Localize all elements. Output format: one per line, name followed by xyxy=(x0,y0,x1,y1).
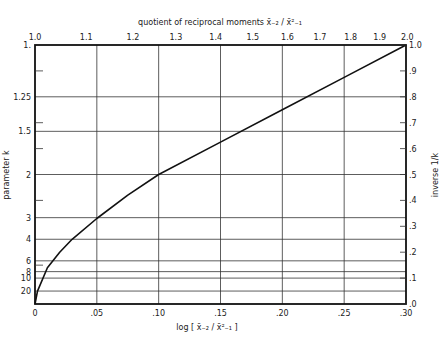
left-tick-label: 1.25 xyxy=(13,93,31,102)
right-tick-label: .3 xyxy=(409,222,417,231)
top-tick-label: 1.7 xyxy=(314,33,327,42)
left-tick-label: 20 xyxy=(21,287,31,296)
right-tick-label: .6 xyxy=(409,145,417,154)
top-tick-label: 2.0 xyxy=(401,33,414,42)
grid-lines xyxy=(35,45,406,304)
right-tick-label: 1.0 xyxy=(409,41,422,50)
axis-ticks: 0.05.10.15.20.25.301.1.251.52346810201.0… xyxy=(13,33,422,318)
chart: 0.05.10.15.20.25.301.1.251.52346810201.0… xyxy=(0,0,447,341)
top-tick-label: 1.0 xyxy=(29,33,42,42)
top-tick-label: 1.2 xyxy=(127,33,140,42)
left-tick-label: 4 xyxy=(26,235,31,244)
top-tick-label: 1.4 xyxy=(209,33,222,42)
x-tick-label: 0 xyxy=(32,309,37,318)
right-tick-label: .8 xyxy=(409,93,417,102)
right-tick-label: .2 xyxy=(409,248,417,257)
right-tick-label: .9 xyxy=(409,67,417,76)
top-tick-label: 1.8 xyxy=(344,33,357,42)
left-tick-label: 2 xyxy=(26,171,31,180)
left-tick-label: 10 xyxy=(21,274,31,283)
top-tick-label: 1.1 xyxy=(80,33,93,42)
x-tick-label: .25 xyxy=(338,309,351,318)
right-tick-label: .0 xyxy=(409,300,417,309)
top-tick-label: 1.5 xyxy=(246,33,259,42)
left-tick-label: 3 xyxy=(26,214,31,223)
x-tick-label: .20 xyxy=(276,309,289,318)
left-axis-title: parameter k xyxy=(2,150,11,200)
top-tick-label: 1.3 xyxy=(170,33,183,42)
x-tick-label: .05 xyxy=(90,309,103,318)
x-tick-label: .30 xyxy=(400,309,413,318)
right-tick-label: .5 xyxy=(409,171,417,180)
right-tick-label: .7 xyxy=(409,119,417,128)
right-axis-title: inverse 1/k xyxy=(431,152,440,197)
top-tick-label: 1.9 xyxy=(373,33,386,42)
right-tick-label: .1 xyxy=(409,274,417,283)
left-tick-label: 1.5 xyxy=(18,127,31,136)
left-tick-label: 6 xyxy=(26,257,31,266)
left-tick-label: 1. xyxy=(23,41,31,50)
top-axis-title: quotient of reciprocal moments x̄₋₂ / x̄… xyxy=(138,18,302,27)
x-tick-label: .15 xyxy=(214,309,227,318)
top-tick-label: 1.6 xyxy=(281,33,294,42)
x-tick-label: .10 xyxy=(152,309,165,318)
right-tick-label: .4 xyxy=(409,196,417,205)
bottom-axis-title: log [ x̄₋₂ / x̄²₋₁ ] xyxy=(176,323,237,332)
